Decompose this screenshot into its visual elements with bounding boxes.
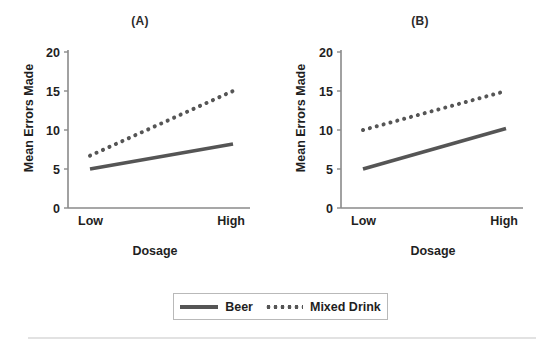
panel-b-xtick-label-high: High [490,214,518,228]
panel-a-ytick-label-15: 15 [46,85,60,99]
panel-a-ytick-label-20: 20 [46,46,60,60]
chart-legend: Beer Mixed Drink [173,293,388,320]
chart-panel-b: (B) Mean Errors Made 20 15 10 5 0 Low Hi… [280,0,560,270]
panel-b-ytick-label-15: 15 [319,85,333,99]
panel-b-series-beer [363,128,506,169]
panel-b-ytick-label-0: 0 [326,202,333,216]
panel-b-plot: 20 15 10 5 0 Low High [280,0,560,270]
panel-b-series-mixed-drink [363,91,506,130]
panel-a-ytick-label-5: 5 [53,163,60,177]
panel-a-series-beer [90,144,233,169]
figure-container: (A) Mean Errors Made 20 15 10 5 0 Low Hi… [0,0,560,348]
panel-a-x-axis-label: Dosage [0,244,280,258]
legend-entry-beer: Beer [180,300,253,314]
panel-b-x-axis-label: Dosage [280,244,560,258]
legend-entry-mixed-drink: Mixed Drink [265,300,381,314]
panel-a-xtick-label-low: Low [78,214,103,228]
panel-b-xtick-label-low: Low [351,214,376,228]
panel-a-plot: 20 15 10 5 0 Low High [0,0,280,270]
panel-a-ytick-label-0: 0 [53,202,60,216]
dotted-line-swatch-icon [265,305,303,309]
panel-a-ytick-label-10: 10 [46,124,60,138]
solid-line-swatch-icon [180,305,218,309]
legend-label-beer: Beer [225,300,253,314]
panel-b-ytick-label-5: 5 [326,163,333,177]
panel-b-ytick-label-20: 20 [319,46,333,60]
panel-a-xtick-label-high: High [217,214,245,228]
panel-b-ytick-label-10: 10 [319,124,333,138]
footer-divider [28,337,536,339]
chart-panel-a: (A) Mean Errors Made 20 15 10 5 0 Low Hi… [0,0,280,270]
legend-label-mixed-drink: Mixed Drink [310,300,381,314]
